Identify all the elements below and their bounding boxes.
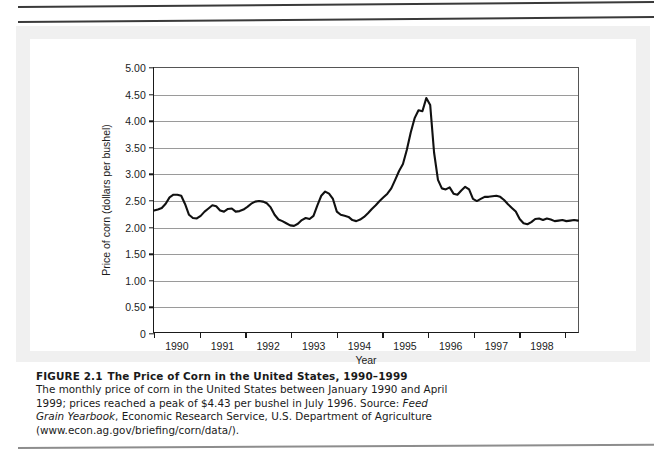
x-axis-tick-mark (291, 332, 292, 338)
x-axis-tick-mark (154, 332, 155, 338)
y-axis-tick-label: 1.00 (125, 275, 146, 287)
figure-number: FIGURE 2.1 (36, 370, 103, 382)
price-series-line (154, 68, 578, 332)
x-axis-tick-mark (428, 332, 429, 338)
page-rule-bottom (18, 444, 654, 449)
x-axis-tick-mark (565, 332, 566, 338)
y-axis-tick-label: 2.00 (125, 222, 146, 234)
x-axis-title: Year (355, 354, 376, 366)
y-axis-tick-label: 3.50 (125, 142, 146, 154)
figure-plate: Price of corn (dollars per bushel) Year … (30, 39, 636, 351)
page-rule-top-2 (18, 16, 654, 23)
x-axis-tick-label: 1996 (439, 340, 462, 352)
figure-caption-body: The monthly price of corn in the United … (36, 383, 456, 437)
x-axis-tick-label: 1998 (530, 340, 553, 352)
figure-caption-heading: FIGURE 2.1The Price of Corn in the Unite… (36, 370, 456, 383)
caption-text-1: The monthly price of corn in the United … (36, 383, 447, 408)
x-axis-tick-mark (519, 332, 520, 338)
plot-area: 00.501.001.502.002.503.003.504.004.505.0… (153, 67, 579, 333)
x-axis-tick-mark (474, 332, 475, 338)
y-axis-tick-label: 3.00 (125, 168, 146, 180)
x-axis-tick-mark (337, 332, 338, 338)
line-chart: Price of corn (dollars per bushel) Year … (30, 39, 636, 351)
x-axis-tick-label: 1994 (348, 340, 371, 352)
x-axis-tick-label: 1991 (211, 340, 234, 352)
x-axis-tick-mark (245, 332, 246, 338)
x-axis-tick-mark (200, 332, 201, 338)
y-axis-tick-label: 4.50 (125, 89, 146, 101)
x-axis-tick-label: 1990 (165, 340, 188, 352)
figure-card: Price of corn (dollars per bushel) Year … (16, 26, 650, 362)
y-axis-tick-label: 4.00 (125, 115, 146, 127)
y-axis-tick-label: 5.00 (125, 62, 146, 74)
y-axis-tick-label: 0.50 (125, 301, 146, 313)
x-axis-tick-label: 1995 (393, 340, 416, 352)
figure-title: The Price of Corn in the United States, … (108, 370, 408, 382)
x-axis-tick-label: 1993 (302, 340, 325, 352)
x-axis-tick-mark (382, 332, 383, 338)
x-axis-tick-label: 1997 (485, 340, 508, 352)
x-axis-tick-label: 1992 (256, 340, 279, 352)
page-rule-top-1 (18, 1, 654, 8)
y-axis-tick-label: 2.50 (125, 195, 146, 207)
figure-caption: FIGURE 2.1The Price of Corn in the Unite… (36, 370, 456, 437)
y-axis-title: Price of corn (dollars per bushel) (100, 124, 112, 276)
y-axis-tick-label: 0 (140, 328, 146, 340)
y-axis-tick-label: 1.50 (125, 248, 146, 260)
